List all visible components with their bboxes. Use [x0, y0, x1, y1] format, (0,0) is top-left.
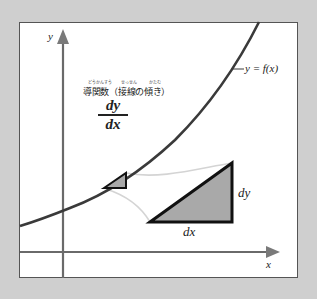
y-axis-label: y	[48, 30, 53, 42]
derivative-title: 導関数（接線の傾き）	[83, 85, 170, 98]
small-slope-triangle	[104, 173, 126, 188]
connector-line-bottom	[106, 189, 150, 222]
diagram-canvas	[0, 0, 317, 299]
derivative-fraction: dy dx	[98, 98, 128, 132]
curve-label: y = f(x)	[245, 62, 278, 74]
x-axis-arrow-icon	[266, 246, 280, 258]
fraction-denominator: dx	[98, 117, 128, 132]
fraction-numerator: dy	[98, 98, 128, 113]
magnified-slope-triangle	[150, 163, 232, 222]
dx-label: dx	[183, 224, 195, 240]
dy-label: dy	[238, 185, 250, 201]
y-axis-arrow-icon	[57, 29, 69, 44]
x-axis-label: x	[266, 258, 271, 270]
